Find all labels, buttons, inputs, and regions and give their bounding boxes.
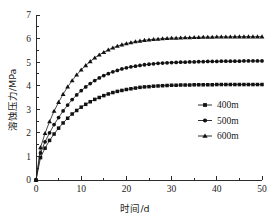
legend-marker-square: [203, 103, 207, 107]
data-point: [260, 83, 264, 87]
data-point: [152, 84, 156, 88]
data-point: [229, 83, 233, 87]
legend-label: 400m: [217, 100, 239, 110]
data-point: [174, 60, 178, 64]
data-point: [93, 98, 97, 102]
data-point: [197, 83, 201, 87]
data-point: [228, 59, 232, 63]
data-point: [43, 146, 47, 150]
data-point: [206, 83, 210, 87]
data-point: [165, 61, 169, 65]
data-point: [57, 126, 61, 129]
data-point: [129, 65, 133, 69]
y-tick-label: 3: [26, 105, 31, 115]
data-point: [48, 139, 52, 143]
data-point: [206, 60, 210, 64]
data-point: [161, 61, 165, 65]
data-point: [52, 123, 56, 127]
data-point: [247, 59, 251, 63]
data-point: [183, 83, 187, 87]
data-point: [197, 60, 201, 64]
data-point: [107, 92, 111, 96]
data-point: [188, 83, 192, 87]
data-point: [138, 86, 142, 90]
legend-label: 600m: [217, 131, 239, 141]
data-point: [174, 83, 178, 87]
data-point: [88, 82, 92, 86]
data-point: [251, 83, 255, 87]
data-point: [192, 83, 196, 87]
data-point: [102, 94, 106, 98]
data-point: [115, 69, 119, 73]
x-axis-title: 时间/d: [120, 203, 149, 214]
data-point: [106, 72, 110, 76]
data-point: [93, 79, 97, 83]
data-point: [134, 86, 138, 90]
data-point: [66, 116, 70, 120]
data-point: [147, 85, 151, 89]
data-point: [179, 83, 183, 87]
data-point: [120, 67, 124, 71]
x-tick-label: 10: [76, 184, 86, 194]
legend: 400m500m600m: [198, 100, 239, 141]
data-point: [242, 59, 246, 63]
data-point: [188, 60, 192, 64]
data-point: [161, 84, 165, 88]
y-tick-label: 1: [26, 152, 31, 162]
data-point: [120, 89, 124, 93]
y-tick-label: 6: [26, 34, 31, 44]
data-point: [147, 62, 151, 66]
data-point: [70, 112, 74, 116]
data-point: [70, 98, 74, 102]
y-tick-label: 5: [26, 58, 31, 68]
y-tick-label: 4: [26, 81, 31, 91]
data-point: [57, 116, 61, 120]
data-point: [201, 60, 205, 64]
data-point: [61, 109, 65, 113]
data-point: [52, 132, 56, 136]
legend-marker-circle: [203, 118, 207, 122]
data-point: [242, 83, 246, 87]
data-point: [84, 103, 88, 107]
data-point: [79, 89, 83, 93]
data-point: [134, 64, 138, 68]
x-tick-label: 0: [34, 184, 39, 194]
data-point: [215, 60, 219, 64]
data-point: [125, 88, 128, 92]
data-point: [79, 105, 83, 109]
data-point: [247, 83, 251, 87]
data-point: [152, 62, 156, 66]
y-tick-label: 7: [26, 10, 31, 20]
data-point: [111, 70, 115, 74]
data-point: [256, 59, 260, 63]
data-point: [170, 83, 174, 87]
data-point: [102, 74, 106, 78]
data-point: [48, 131, 52, 135]
data-point: [129, 87, 133, 91]
data-point: [183, 60, 187, 64]
data-point: [111, 91, 115, 95]
line-chart: 01020304050 01234567 400m500m600m 时间/d 溶…: [0, 0, 270, 216]
data-point: [251, 59, 255, 63]
y-axis-title: 溶蚀压力/MPa: [7, 69, 18, 132]
data-point: [125, 66, 129, 70]
data-point: [75, 93, 79, 97]
data-point: [233, 59, 237, 63]
data-point: [61, 121, 64, 125]
data-point: [170, 61, 174, 65]
data-point: [238, 83, 242, 87]
chart-container: 01020304050 01234567 400m500m600m 时间/d 溶…: [0, 0, 270, 216]
x-tick-label: 20: [122, 184, 132, 194]
data-point: [224, 83, 228, 87]
data-point: [260, 59, 264, 63]
data-point: [75, 109, 79, 113]
data-point: [84, 85, 88, 89]
data-point: [210, 60, 214, 64]
data-point: [165, 84, 169, 88]
data-point: [138, 64, 142, 68]
data-point: [88, 100, 92, 104]
data-point: [201, 83, 205, 87]
data-point: [116, 90, 120, 94]
data-point: [156, 84, 160, 88]
x-tick-label: 40: [212, 184, 222, 194]
